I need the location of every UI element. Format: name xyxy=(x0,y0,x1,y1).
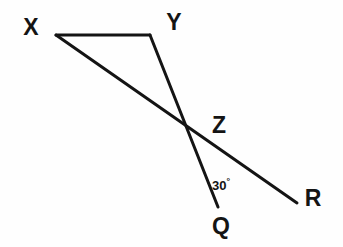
degree-symbol: ° xyxy=(226,176,230,186)
geometry-canvas xyxy=(0,0,343,247)
vertex-label-y: Y xyxy=(166,11,181,34)
figure-background xyxy=(0,0,343,247)
angle-value: 30 xyxy=(212,178,226,193)
vertex-label-q: Q xyxy=(212,215,230,238)
vertex-label-x: X xyxy=(23,16,38,39)
vertex-label-z: Z xyxy=(212,114,226,137)
geometry-figure: X Y Z Q R 30° xyxy=(0,0,343,247)
angle-label-30-degrees: 30° xyxy=(212,179,230,192)
vertex-label-r: R xyxy=(305,187,322,210)
